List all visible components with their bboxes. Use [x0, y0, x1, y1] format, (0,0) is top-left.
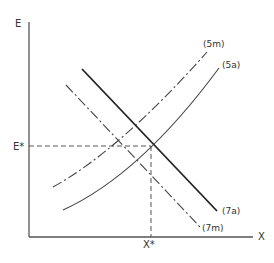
curve-7a [82, 69, 217, 211]
curve-7a-label: (7a) [222, 206, 240, 216]
curve-7m [66, 85, 200, 227]
diagram-canvas: E X E* X* (5m) (5a) (7a) (7m) [0, 0, 274, 263]
x-axis-label: X [258, 231, 265, 242]
y-axis-label: E [15, 18, 21, 29]
curve-5m-label: (5m) [203, 39, 225, 49]
e-star-label: E* [13, 141, 24, 152]
curve-5a-label: (5a) [222, 60, 240, 70]
x-star-label: X* [143, 239, 155, 250]
curve-7m-label: (7m) [202, 223, 224, 233]
